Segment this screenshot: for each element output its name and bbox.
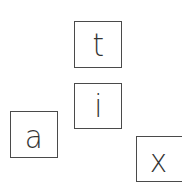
letter-tile-t[interactable]: t	[74, 21, 122, 68]
letter-tile-x[interactable]: x	[136, 136, 182, 182]
letter-a: a	[25, 121, 43, 153]
letter-x: x	[149, 145, 166, 177]
letter-t: t	[92, 29, 104, 61]
letter-tile-i[interactable]: i	[74, 83, 122, 129]
letter-tile-a[interactable]: a	[10, 111, 58, 158]
letter-i: i	[94, 90, 102, 122]
